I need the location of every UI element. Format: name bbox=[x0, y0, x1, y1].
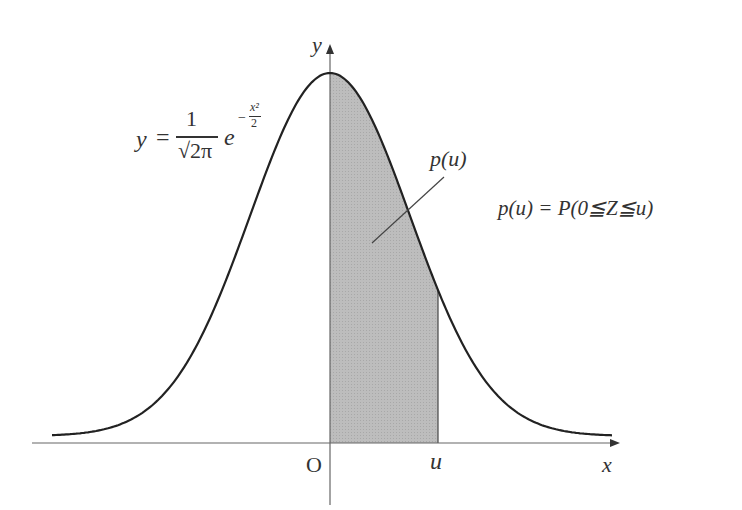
normal-curve-diagram bbox=[0, 0, 742, 510]
x-axis-label: x bbox=[602, 452, 612, 478]
equation-lhs: y bbox=[136, 126, 147, 153]
exp-numerator: x² bbox=[250, 100, 259, 115]
exp-minus: − bbox=[238, 110, 246, 126]
exp-base: e bbox=[224, 124, 235, 151]
exp-denominator: 2 bbox=[251, 116, 257, 131]
area-label: p(u) bbox=[430, 146, 467, 172]
equation-numerator: 1 bbox=[186, 106, 197, 132]
x-axis-arrow-icon bbox=[610, 439, 620, 447]
origin-label: O bbox=[306, 452, 322, 478]
u-label: u bbox=[430, 448, 442, 475]
y-axis-label: y bbox=[312, 32, 322, 58]
equation-denominator: √2π bbox=[178, 138, 212, 164]
y-axis-arrow-icon bbox=[326, 44, 334, 54]
shaded-area-p-u bbox=[330, 73, 438, 443]
density-equation: y = 1 √2π e − x² 2 bbox=[136, 112, 266, 172]
equation-equals: = bbox=[156, 124, 170, 151]
p-u-definition: p(u) = P(0≦Z≦u) bbox=[498, 196, 653, 221]
